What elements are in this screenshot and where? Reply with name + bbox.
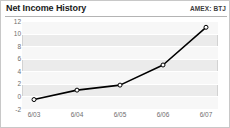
widget-header: Net Income History AMEX: BTJ — [1, 1, 230, 19]
x-axis-tick-label: 6/07 — [200, 111, 213, 118]
y-axis-tick-label: 6 — [2, 55, 21, 62]
ticker-symbol-label: AMEX: BTJ — [190, 5, 226, 12]
y-axis-tick-label: 12 — [2, 18, 21, 25]
plot-area — [22, 21, 218, 109]
x-axis-tick-label: 6/04 — [71, 111, 84, 118]
data-point-marker — [204, 25, 208, 29]
data-point-markers — [32, 25, 208, 101]
y-axis-tick-label: 2 — [2, 80, 21, 87]
x-axis-tick-label: 6/05 — [114, 111, 127, 118]
data-point-marker — [75, 88, 79, 92]
data-point-marker — [161, 63, 165, 67]
y-axis-tick-label: 0 — [2, 93, 21, 100]
y-axis: 121086420-2 — [1, 21, 21, 109]
y-axis-tick-label: 10 — [2, 30, 21, 37]
net-income-history-chart-widget: Net Income History AMEX: BTJ 121086420-2… — [0, 0, 230, 128]
header-divider — [5, 16, 227, 17]
data-point-marker — [32, 98, 36, 102]
page-title: Net Income History — [6, 3, 86, 13]
x-axis: 6/036/046/056/066/07 — [22, 111, 218, 123]
y-axis-tick-label: -2 — [2, 106, 21, 113]
y-axis-tick-label: 4 — [2, 68, 21, 75]
net-income-line — [34, 27, 206, 99]
y-axis-tick-label: 8 — [2, 43, 21, 50]
data-point-marker — [118, 83, 122, 87]
x-axis-tick-label: 6/06 — [157, 111, 170, 118]
x-axis-tick-label: 6/03 — [28, 111, 41, 118]
data-line-layer — [22, 21, 218, 109]
gridline — [22, 109, 218, 110]
